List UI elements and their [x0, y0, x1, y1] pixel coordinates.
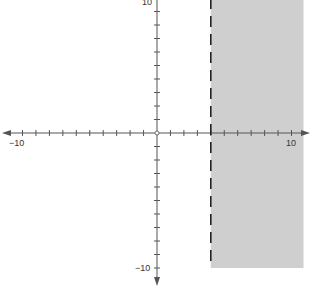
origin-marker	[155, 131, 159, 135]
y-min-label: −10	[135, 263, 150, 273]
x-min-label: −10	[9, 138, 24, 148]
coordinate-plane: −10 10 10 −10	[0, 0, 316, 296]
y-axis-down-arrow-icon	[154, 277, 160, 286]
x-max-label: 10	[286, 138, 296, 148]
x-axis-left-arrow-icon	[2, 130, 11, 136]
x-axis-right-arrow-icon	[301, 130, 310, 136]
y-max-label: 10	[142, 0, 152, 7]
